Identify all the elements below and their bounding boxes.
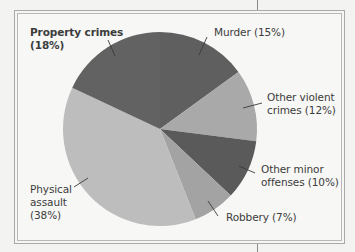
label-property-crimes: Property crimes (18%) bbox=[30, 26, 123, 52]
label-other-minor-offenses: Other minor offenses (10%) bbox=[261, 163, 339, 189]
label-physical-assault: Physical assault (38%) bbox=[30, 183, 72, 222]
label-robbery: Robbery (7%) bbox=[226, 211, 297, 224]
label-other-violent-crimes: Other violent crimes (12%) bbox=[267, 91, 336, 117]
pie-wedges bbox=[63, 32, 257, 226]
label-murder: Murder (15%) bbox=[214, 26, 285, 39]
